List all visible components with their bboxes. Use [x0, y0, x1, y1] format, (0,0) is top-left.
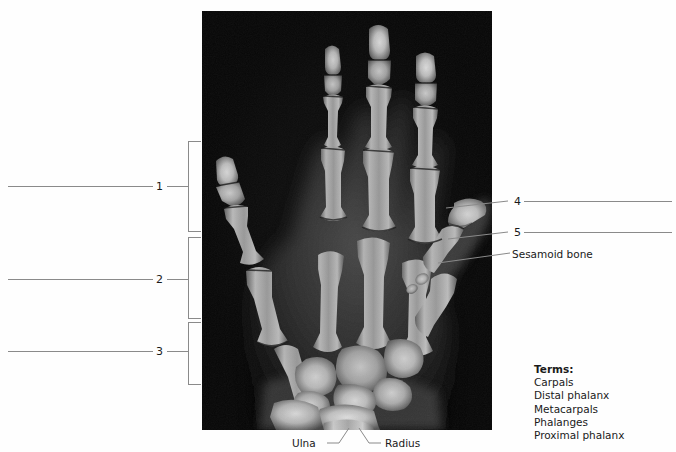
answer-line-2: [8, 279, 153, 280]
bracket-1-top-tick: [188, 141, 201, 142]
answer-line-4: [524, 201, 672, 202]
label-sesamoid-bone: Sesamoid bone: [512, 249, 593, 260]
bracket-2-stem: [167, 279, 189, 280]
bracket-3-stem: [167, 351, 189, 352]
answer-line-5: [524, 232, 672, 233]
leader-line-radius: [356, 426, 382, 446]
callout-number-5: 5: [514, 227, 521, 238]
bracket-3-bottom-tick: [188, 384, 201, 385]
bracket-3-spine: [188, 322, 189, 384]
label-radius: Radius: [385, 438, 420, 449]
bracket-1-bottom-tick: [188, 231, 201, 232]
leader-line-sesamoid: [436, 248, 512, 268]
bracket-1-stem: [167, 186, 189, 187]
callout-number-4: 4: [514, 196, 521, 207]
term-item-phalanges: Phalanges: [534, 416, 624, 429]
callout-number-3: 3: [156, 346, 163, 357]
label-ulna: Ulna: [292, 438, 316, 449]
bracket-2-top-tick: [188, 237, 201, 238]
leader-line-ulna: [326, 426, 352, 446]
terms-list: Terms: Carpals Distal phalanx Metacarpal…: [534, 363, 624, 442]
term-item-proximal-phalanx: Proximal phalanx: [534, 429, 624, 442]
callout-number-1: 1: [156, 181, 163, 192]
answer-line-1: [8, 186, 153, 187]
term-item-metacarpals: Metacarpals: [534, 403, 624, 416]
hand-xray-image: [202, 11, 492, 430]
term-item-carpals: Carpals: [534, 376, 624, 389]
worksheet-page: 1 2 3 4 5 Sesamoid bone Ulna Radius Term…: [0, 0, 676, 452]
callout-number-2: 2: [156, 274, 163, 285]
leader-line-4: [444, 195, 510, 213]
bracket-2-spine: [188, 237, 189, 318]
bracket-3-top-tick: [188, 322, 201, 323]
bracket-2-bottom-tick: [188, 318, 201, 319]
answer-line-3: [8, 351, 153, 352]
leader-line-5: [446, 226, 510, 244]
term-item-distal-phalanx: Distal phalanx: [534, 389, 624, 402]
terms-heading: Terms:: [534, 363, 624, 376]
